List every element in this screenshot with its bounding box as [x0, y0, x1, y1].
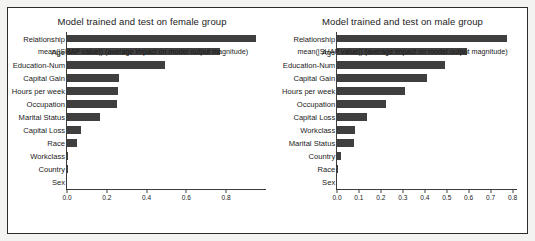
- y-tick-label: Occupation: [27, 99, 65, 108]
- x-tick-label: 0.6: [182, 194, 191, 201]
- bar-row: Marital Status: [337, 137, 517, 150]
- chart-panel-female: Model trained and test on female group R…: [8, 8, 276, 233]
- chart-panel-male: Model trained and test on male group Rel…: [276, 8, 529, 233]
- bar-row: Hours per week: [337, 84, 517, 97]
- bar: [67, 35, 256, 43]
- bar-row: Hours per week: [67, 84, 266, 97]
- bar: [67, 126, 81, 134]
- bar: [337, 139, 354, 147]
- bar-row: Capital Loss: [67, 124, 266, 137]
- x-ticks-female: 0.00.20.40.60.8: [67, 190, 266, 191]
- bar-row: Capital Gain: [67, 71, 266, 84]
- bar: [337, 126, 355, 134]
- bar: [337, 113, 367, 121]
- y-tick-label: Country: [38, 165, 65, 174]
- y-tick-label: Workclass: [300, 126, 335, 135]
- y-tick-label: Sex: [52, 178, 65, 187]
- y-tick-label: Hours per week: [282, 86, 335, 95]
- x-tick-label: 0.3: [398, 194, 407, 201]
- bar-row: Country: [337, 150, 517, 163]
- y-tick-label: Relationship: [293, 34, 335, 43]
- y-tick-label: Sex: [322, 178, 335, 187]
- x-tick-label: 0.2: [102, 194, 111, 201]
- x-tick-mark: [67, 190, 68, 193]
- bar: [67, 74, 119, 82]
- x-tick-mark: [468, 190, 469, 193]
- chart-title-male: Model trained and test on male group: [276, 16, 529, 27]
- y-tick-label: Country: [309, 152, 336, 161]
- bar-row: Sex: [337, 176, 517, 189]
- figure-canvas: Model trained and test on female group R…: [7, 7, 528, 234]
- x-tick-mark: [512, 190, 513, 193]
- bar-row: Race: [337, 163, 517, 176]
- x-tick-label: 0.5: [442, 194, 451, 201]
- bar: [337, 61, 445, 69]
- plot-area-female: RelationshipAgeEducation-NumCapital Gain…: [66, 32, 266, 190]
- x-tick-mark: [358, 190, 359, 193]
- x-tick-mark: [146, 190, 147, 193]
- x-tick-label: 0.8: [222, 194, 231, 201]
- bar: [337, 87, 405, 95]
- x-tick-mark: [186, 190, 187, 193]
- y-tick-label: Marital Status: [289, 139, 335, 148]
- x-axis-label-female: mean(|SHAP value|) (average impact on mo…: [20, 47, 266, 56]
- bar: [67, 165, 68, 173]
- bar: [337, 152, 341, 160]
- x-tick-label: 0.8: [508, 194, 517, 201]
- y-tick-label: Education-Num: [283, 60, 335, 69]
- y-tick-label: Capital Gain: [293, 73, 335, 82]
- bar-row: Capital Gain: [337, 71, 517, 84]
- bar-row: Country: [67, 163, 266, 176]
- x-tick-mark: [402, 190, 403, 193]
- x-tick-mark: [446, 190, 447, 193]
- x-ticks-male: 0.00.10.20.30.40.50.60.70.8: [337, 190, 517, 191]
- y-tick-label: Hours per week: [12, 86, 65, 95]
- bar: [67, 87, 118, 95]
- y-tick-label: Capital Gain: [23, 73, 65, 82]
- plot-area-male: RelationshipAgeEducation-NumCapital Gain…: [336, 32, 517, 190]
- x-tick-label: 0.0: [332, 194, 341, 201]
- bar-row: Sex: [67, 176, 266, 189]
- x-tick-mark: [106, 190, 107, 193]
- bar-row: Workclass: [337, 124, 517, 137]
- x-tick-label: 0.4: [142, 194, 151, 201]
- y-tick-label: Occupation: [297, 99, 335, 108]
- y-tick-label: Race: [47, 139, 65, 148]
- x-tick-label: 0.4: [420, 194, 429, 201]
- x-tick-label: 0.7: [486, 194, 495, 201]
- y-tick-label: Race: [317, 165, 335, 174]
- bar: [337, 165, 338, 173]
- y-tick-label: Capital Loss: [293, 113, 335, 122]
- bar-row: Relationship: [337, 32, 517, 45]
- bar: [67, 100, 117, 108]
- bar: [337, 74, 427, 82]
- x-tick-mark: [226, 190, 227, 193]
- x-tick-mark: [424, 190, 425, 193]
- x-tick-label: 0.2: [376, 194, 385, 201]
- x-axis-label-male: mean(|SHAP value|) (average impact on mo…: [288, 47, 517, 56]
- y-tick-label: Capital Loss: [23, 126, 65, 135]
- bar: [67, 152, 68, 160]
- y-tick-label: Marital Status: [19, 113, 65, 122]
- bar-row: Capital Loss: [337, 110, 517, 123]
- y-tick-label: Workclass: [30, 152, 65, 161]
- bar: [337, 35, 507, 43]
- bar-row: Education-Num: [67, 58, 266, 71]
- x-tick-mark: [337, 190, 338, 193]
- bar-row: Occupation: [337, 97, 517, 110]
- x-tick-label: 0.1: [354, 194, 363, 201]
- bar: [67, 139, 77, 147]
- x-tick-label: 0.6: [464, 194, 473, 201]
- bar-row: Marital Status: [67, 110, 266, 123]
- chart-title-female: Model trained and test on female group: [8, 16, 276, 27]
- bar-row: Relationship: [67, 32, 266, 45]
- bar: [67, 113, 100, 121]
- bar-row: Race: [67, 137, 266, 150]
- bar: [337, 100, 386, 108]
- x-tick-mark: [490, 190, 491, 193]
- x-tick-mark: [380, 190, 381, 193]
- bar-row: Education-Num: [337, 58, 517, 71]
- y-tick-label: Relationship: [23, 34, 65, 43]
- y-tick-label: Education-Num: [13, 60, 65, 69]
- bar: [67, 61, 165, 69]
